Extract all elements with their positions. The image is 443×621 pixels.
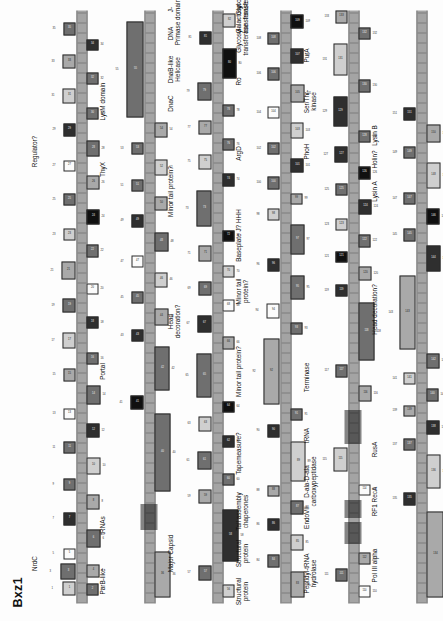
gene-box[interactable]: 140 <box>426 388 438 401</box>
gene-box[interactable]: 115 <box>333 447 347 471</box>
gene-box[interactable]: 144 <box>426 245 440 271</box>
gene-box[interactable]: 59 <box>198 489 211 503</box>
gene-box[interactable]: 5 <box>63 548 75 559</box>
gene-box[interactable]: 146 <box>426 208 439 224</box>
gene-box[interactable]: 81 <box>199 31 211 44</box>
gene-box[interactable]: 11 <box>63 441 75 453</box>
gene-box[interactable]: 88 <box>267 485 279 496</box>
function-annotation: Holin? <box>370 150 377 168</box>
gene-box[interactable]: 61 <box>197 451 211 469</box>
function-annotation: RusA <box>370 441 377 457</box>
function-annotation: DNA Primase <box>166 21 180 44</box>
gene-box[interactable]: 136 <box>426 454 440 488</box>
gene-box[interactable]: 9 <box>63 478 75 490</box>
gene-label: 145 <box>407 233 411 236</box>
gene-box[interactable]: 19 <box>62 298 75 312</box>
gene-box[interactable]: 98 <box>267 208 279 220</box>
gene-box[interactable]: 147 <box>403 192 415 204</box>
gene-box[interactable]: 27 <box>63 160 75 171</box>
gene-box[interactable]: 123 <box>335 218 347 230</box>
gene-box[interactable]: 79 <box>197 82 211 100</box>
gene-box[interactable]: 102 <box>267 142 279 154</box>
gene-box[interactable]: 1 <box>62 581 75 595</box>
function-annotation: ArgD <box>234 146 241 161</box>
gene-box[interactable]: 49 <box>131 214 143 227</box>
gene-box[interactable]: 106 <box>267 67 279 80</box>
gene-box[interactable]: 138 <box>426 420 439 434</box>
gene-label: 12 <box>91 429 94 432</box>
gene-box[interactable]: 141 <box>403 372 415 384</box>
gene-label: 47 <box>136 260 139 263</box>
gene-box[interactable]: 131 <box>333 43 347 75</box>
gene-box[interactable]: 121 <box>335 251 347 262</box>
gene-box[interactable]: 135 <box>403 492 415 505</box>
gene-label: 96 <box>272 263 275 266</box>
gene-box[interactable]: 127 <box>334 146 347 162</box>
gene-box[interactable]: 47 <box>131 255 143 267</box>
gene-box[interactable]: 21 <box>61 261 75 279</box>
gene-box[interactable]: 142 <box>426 353 439 368</box>
gene-box[interactable]: 137 <box>403 438 415 450</box>
gene-box[interactable]: 25 <box>63 193 75 205</box>
gene-box[interactable]: 71 <box>198 245 211 261</box>
gene-box[interactable]: 65 <box>196 353 211 397</box>
gene-box[interactable]: 17 <box>62 332 75 348</box>
gene-box[interactable]: 23 <box>63 228 75 240</box>
gene-box[interactable]: 84 <box>267 554 279 567</box>
gene-box[interactable]: 104 <box>267 106 279 118</box>
gene-box[interactable]: 108 <box>267 32 279 44</box>
gene-box[interactable]: 73 <box>196 190 211 226</box>
gene-box[interactable]: 133 <box>335 10 347 23</box>
gene-box[interactable]: 69 <box>198 281 211 295</box>
gene-box[interactable]: 96 <box>267 258 279 271</box>
gene-box[interactable]: 41 <box>130 395 143 409</box>
gene-box[interactable]: 43 <box>131 329 143 341</box>
gene-number-callout: 23 <box>52 233 55 236</box>
gene-label: 149 <box>407 151 411 154</box>
gene-box[interactable]: 92 <box>263 338 279 404</box>
gene-number-callout: 79 <box>186 90 189 93</box>
gene-box[interactable]: 143 <box>399 275 415 349</box>
gene-box[interactable]: 35 <box>63 22 75 35</box>
gene-box[interactable]: 125 <box>335 183 347 195</box>
gene-box[interactable]: 94 <box>266 303 279 318</box>
gene-box[interactable]: 111 <box>335 568 347 581</box>
gene-box[interactable]: 117 <box>335 364 347 377</box>
gene-box[interactable]: 77 <box>198 120 211 134</box>
gene-box[interactable]: 86 <box>267 518 279 530</box>
function-annotation: Portal <box>98 363 105 380</box>
gene-box[interactable]: 119 <box>335 284 347 296</box>
gene-box[interactable]: 51 <box>131 179 143 191</box>
gene-number-callout: 71 <box>187 252 190 255</box>
gene-box[interactable]: 31 <box>62 88 75 103</box>
gene-box[interactable]: 145 <box>403 228 415 241</box>
gene-box[interactable]: 75 <box>198 154 211 169</box>
gene-box[interactable]: 129 <box>333 96 347 126</box>
gene-label: 137 <box>407 443 411 446</box>
gene-box[interactable]: 90 <box>267 424 279 437</box>
function-annotation: DnaC <box>166 95 173 111</box>
function-annotation: tRNAs <box>98 516 105 534</box>
gene-box[interactable]: 149 <box>403 146 415 158</box>
gene-box[interactable]: 45 <box>131 291 143 303</box>
gene-box[interactable]: 7 <box>63 512 75 525</box>
gene-box[interactable]: 100 <box>267 176 279 189</box>
gene-box[interactable]: 148 <box>426 162 440 188</box>
gene-box[interactable]: 33 <box>62 54 75 68</box>
gene-box[interactable]: 150 <box>426 124 440 142</box>
gene-label: 102 <box>271 147 275 150</box>
gene-box[interactable]: 55 <box>126 21 143 117</box>
gene-box[interactable]: 134 <box>426 511 443 597</box>
gene-label: 148 <box>431 174 435 177</box>
gene-box[interactable]: 13 <box>63 408 75 419</box>
gene-label: 79 <box>203 90 206 93</box>
gene-box[interactable]: 57 <box>198 565 211 580</box>
gene-box[interactable]: 63 <box>198 416 211 431</box>
gene-box[interactable]: 67 <box>197 315 211 332</box>
gene-box[interactable]: 29 <box>63 123 75 136</box>
gene-box[interactable]: 139 <box>403 405 415 416</box>
gene-box[interactable]: 151 <box>403 107 415 120</box>
gene-box[interactable]: 15 <box>63 368 75 381</box>
gene-box[interactable]: 53 <box>131 142 143 154</box>
gene-box[interactable]: 3 <box>60 563 75 579</box>
